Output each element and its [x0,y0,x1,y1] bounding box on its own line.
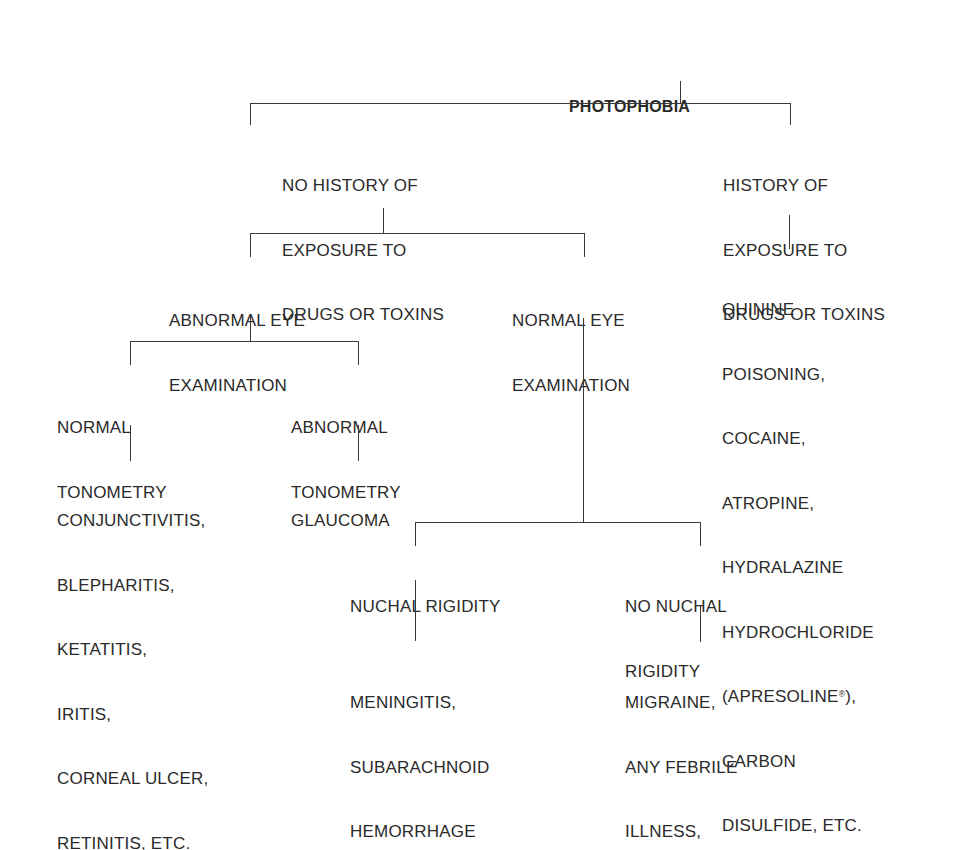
registered-mark: ® [839,689,846,699]
connector-to-no-history [250,103,251,125]
node-line: MENINGITIS, [350,692,489,714]
connector-to-history [790,103,791,125]
node-line: POISONING, [722,364,874,386]
node-line: EXPOSURE TO [282,240,444,262]
node-line: ILLNESS, [625,821,755,843]
connector-to-abnormal-tono [358,341,359,365]
node-line: EXAMINATION [169,375,305,397]
connector-root-branch [250,103,791,104]
node-line: ABNORMAL [291,417,401,439]
connector-no-history-stem [383,208,384,233]
root-node-photophobia: PHOTOPHOBIA [569,53,690,139]
node-line: SUBARACHNOID [350,757,489,779]
node-line: NUCHAL RIGIDITY [350,596,501,618]
node-nuchal-rigidity: NUCHAL RIGIDITY [350,553,501,639]
node-line: QUININE [722,299,874,321]
connector-to-no-nuchal [700,522,701,546]
node-line: RETINITIS, ETC. [57,833,208,850]
node-line: HEMORRHAGE [350,821,489,843]
node-line: DRUGS OR TOXINS [282,304,444,326]
node-glaucoma: GLAUCOMA [291,467,390,553]
connector-root-stem [680,81,681,103]
node-line: GLAUCOMA [291,510,390,532]
connector-abnormal-tono-stem [358,425,359,461]
node-line: HYDRALAZINE [722,557,874,579]
connector-to-nuchal [415,522,416,546]
node-normal-eye-exam: NORMAL EYE EXAMINATION [512,267,630,418]
node-line: ANY FEBRILE [625,757,755,779]
node-line: BLEPHARITIS, [57,575,208,597]
connector-no-nuchal-stem [700,606,701,642]
node-line: ABNORMAL EYE [169,310,305,332]
node-line: NO HISTORY OF [282,175,444,197]
connector-eye-branch [250,233,585,234]
node-line: CONJUNCTIVITIS, [57,510,208,532]
node-line: IRITIS, [57,704,208,726]
connector-to-normal-tono [130,341,131,365]
node-line: MIGRAINE, [625,692,755,714]
connector-nuchal-branch [415,522,701,523]
node-meningitis-group: MENINGITIS, SUBARACHNOID HEMORRHAGE [350,649,489,850]
node-conjunctivitis-group: CONJUNCTIVITIS, BLEPHARITIS, KETATITIS, … [57,467,208,850]
connector-to-abnormal-eye [250,233,251,257]
node-line: ATROPINE, [722,493,874,515]
node-migraine-group: MIGRAINE, ANY FEBRILE ILLNESS, TRIGEMINA… [625,649,755,850]
node-line: HYDROCHLORIDE [722,622,874,644]
connector-abnormal-eye-stem [250,316,251,341]
node-line: NORMAL [57,417,167,439]
connector-to-normal-eye [584,233,585,257]
node-line: EXAMINATION [512,375,630,397]
connector-normal-eye-stem [583,318,584,523]
node-line: HISTORY OF [723,175,885,197]
node-line: CORNEAL ULCER, [57,768,208,790]
connector-history-stem [789,215,790,249]
node-line: KETATITIS, [57,639,208,661]
node-no-history-exposure: NO HISTORY OF EXPOSURE TO DRUGS OR TOXIN… [282,132,444,347]
node-line: PHOTOPHOBIA [569,96,690,118]
connector-normal-tono-stem [130,425,131,461]
connector-tonometry-branch [130,341,359,342]
connector-nuchal-stem [415,580,416,641]
node-line: NO NUCHAL [625,596,727,618]
node-line: NORMAL EYE [512,310,630,332]
node-line: COCAINE, [722,428,874,450]
